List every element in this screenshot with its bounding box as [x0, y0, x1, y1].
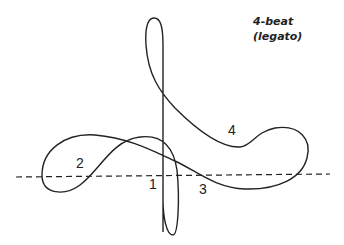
beat-label-2: 2 — [76, 155, 84, 171]
beat-path — [42, 18, 308, 235]
conducting-pattern — [0, 0, 344, 245]
beat-label-3: 3 — [199, 181, 207, 197]
beat-label-4: 4 — [228, 122, 236, 138]
baseline-dashed — [16, 174, 330, 177]
beat-label-1: 1 — [149, 176, 157, 192]
